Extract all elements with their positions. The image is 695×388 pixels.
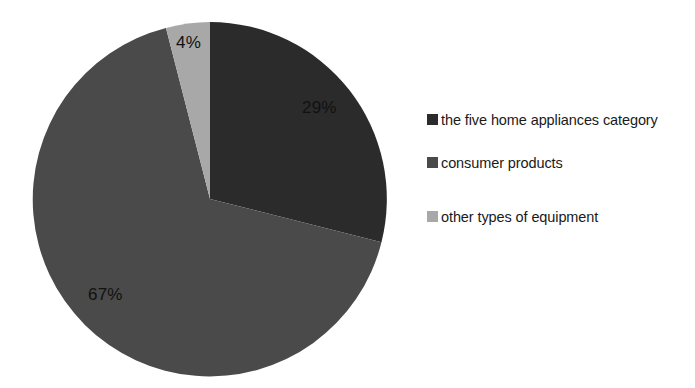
pie-chart: 29% 67% 4% the five home appliances cate… xyxy=(0,0,695,388)
legend-item-label: other types of equipment xyxy=(441,207,598,228)
pie-data-label-29: 29% xyxy=(302,99,337,116)
pie-data-label-4: 4% xyxy=(176,34,201,51)
legend-item-the-five-home-appliances-category[interactable]: the five home appliances category xyxy=(427,110,689,131)
legend-item-label: consumer products xyxy=(441,153,563,174)
legend-item-other-types-of-equipment[interactable]: other types of equipment xyxy=(427,207,689,228)
legend-swatch-icon xyxy=(427,211,438,222)
legend-item-label: the five home appliances category xyxy=(441,110,658,131)
pie-data-label-67: 67% xyxy=(88,286,123,303)
pie-svg xyxy=(0,0,420,388)
chart-legend: the five home appliances category consum… xyxy=(427,110,689,228)
legend-swatch-icon xyxy=(427,114,438,125)
legend-swatch-icon xyxy=(427,157,438,168)
pie-plot-area: 29% 67% 4% xyxy=(0,0,420,388)
legend-item-consumer-products[interactable]: consumer products xyxy=(427,153,689,174)
